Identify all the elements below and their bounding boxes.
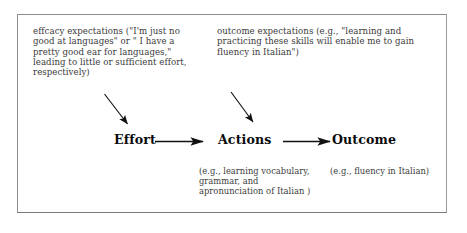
flow-row: Effort Actions Outcome <box>17 131 447 155</box>
efficacy-expectations-note: effcacy expectations ("I'm just no good … <box>33 26 193 78</box>
flow-label-outcome: Outcome <box>332 131 396 149</box>
outcome-example-caption: (e.g., fluency in Italian) <box>330 166 450 176</box>
figure-page: effcacy expectations ("I'm just no good … <box>0 0 467 233</box>
actions-example-caption: (e.g., learning vocabulary, grammar, and… <box>199 166 319 196</box>
flow-label-effort: Effort <box>114 131 156 149</box>
flow-label-actions: Actions <box>218 131 271 149</box>
outcome-expectations-note: outcome expectations (e.g., "learning an… <box>217 26 432 57</box>
